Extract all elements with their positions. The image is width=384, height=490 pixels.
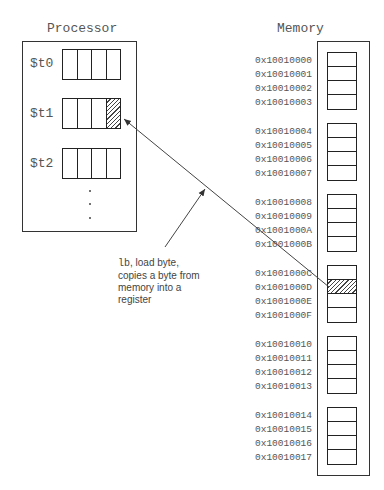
load-arrow xyxy=(124,119,329,287)
data-flow-arrows xyxy=(0,0,384,490)
annotation-pointer-arrow xyxy=(165,189,205,247)
